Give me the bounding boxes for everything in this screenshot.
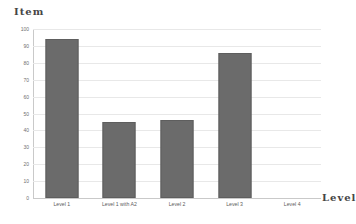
x-axis-tick-label: Level 3 [226, 201, 243, 207]
y-axis-tick-label: 0 [26, 195, 29, 201]
y-axis-tick-label: 50 [23, 111, 29, 117]
y-axis-tick-label: 40 [23, 127, 29, 133]
x-axis-tick-label: Level 2 [169, 201, 186, 207]
plot-area [33, 29, 321, 198]
y-axis-tick-label: 20 [23, 161, 29, 167]
x-axis-title: Level [322, 192, 356, 203]
y-axis-tick-label: 80 [23, 60, 29, 66]
bar[interactable] [160, 120, 193, 198]
y-axis-tick-label: 60 [23, 94, 29, 100]
bar[interactable] [103, 122, 136, 198]
y-axis-tick-label: 90 [23, 43, 29, 49]
bar[interactable] [218, 53, 251, 198]
bar[interactable] [45, 39, 78, 198]
y-axis-tick-label: 10 [23, 178, 29, 184]
x-axis-tick-label: Level 4 [284, 201, 301, 207]
bar-slot [148, 29, 206, 198]
bar-slot [206, 29, 264, 198]
y-axis-tick-label: 70 [23, 77, 29, 83]
x-axis-line [33, 198, 321, 199]
bar-slot [263, 29, 321, 198]
y-axis-tick-labels: 0102030405060708090100 [0, 29, 29, 198]
bar-slot [33, 29, 91, 198]
bar-slot [91, 29, 149, 198]
x-axis-tick-label: Level 1 [53, 201, 70, 207]
x-axis-tick-label: Level 1 with A2 [102, 201, 137, 207]
y-axis-tick-label: 100 [21, 26, 29, 32]
y-axis-tick-label: 30 [23, 144, 29, 150]
x-axis-tick-labels: Level 1Level 1 with A2Level 2Level 3Leve… [33, 201, 321, 217]
y-axis-title: Item [14, 6, 44, 17]
